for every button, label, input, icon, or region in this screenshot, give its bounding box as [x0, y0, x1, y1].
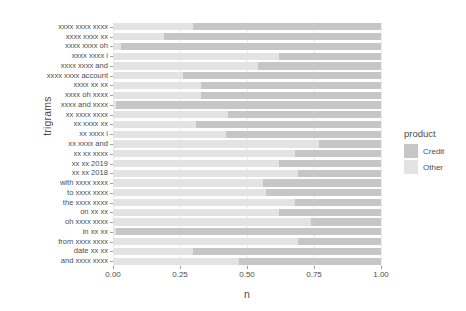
x-axis-tick-label: 0.00 [105, 270, 121, 279]
bar-segment-credit [193, 248, 381, 255]
legend-title: product [404, 128, 464, 139]
x-axis-tick-label: 0.50 [239, 270, 255, 279]
y-axis-tick-label: xx xx 2018 [20, 169, 108, 177]
bar-row [113, 238, 381, 245]
x-axis-tick [314, 266, 315, 269]
bar-row [113, 23, 381, 30]
y-axis-tick-label: to xxxx xxxx [20, 189, 108, 197]
x-axis-tick-labels: 0.000.250.500.751.00 [113, 270, 381, 282]
bar-row [113, 72, 381, 79]
legend-items: CreditOther [404, 144, 464, 174]
bar-row [113, 170, 381, 177]
bar-segment-other [113, 62, 258, 69]
bar-segment-credit [319, 140, 381, 147]
bar-row [113, 140, 381, 147]
y-axis-tick-label: on xx xx [20, 208, 108, 216]
bar-row [113, 160, 381, 167]
bar-segment-credit [193, 23, 381, 30]
bar-segment-other [113, 209, 279, 216]
y-axis-tick-labels: xxxx xxxx xxxxxxxx xxxx xxxxxx xxxx ohxx… [20, 22, 108, 266]
legend: product CreditOther [404, 128, 464, 176]
bar-segment-credit [295, 150, 381, 157]
bar-segment-credit [121, 43, 381, 50]
bar-segment-other [113, 199, 295, 206]
y-axis-tick-label: xx xx 2019 [20, 160, 108, 168]
x-axis-tick [247, 266, 248, 269]
y-axis-tick-label: xx xxxx xxxx [20, 111, 108, 119]
bar-segment-other [113, 140, 319, 147]
legend-label: Credit [423, 147, 444, 156]
legend-swatch-other [404, 160, 418, 174]
x-axis-tick [381, 266, 382, 269]
bar-segment-credit [266, 189, 381, 196]
y-axis-tick-label: xxxx xxxx and [20, 62, 108, 70]
bar-segment-other [113, 23, 193, 30]
bar-row [113, 150, 381, 157]
bar-segment-credit [311, 218, 381, 225]
bar-segment-other [113, 82, 201, 89]
legend-item[interactable]: Other [404, 160, 464, 174]
y-axis-tick-label: oh xxxx xxxx [20, 218, 108, 226]
bar-segment-credit [116, 228, 381, 235]
bar-segment-credit [239, 258, 381, 265]
y-axis-tick-label: xxxx xx xx [20, 81, 108, 89]
bar-row [113, 189, 381, 196]
bar-row [113, 218, 381, 225]
bar-row [113, 228, 381, 235]
bar-segment-other [113, 170, 298, 177]
bar-segment-credit [226, 131, 381, 138]
y-axis-tick-label: xxxx xxxx i [20, 52, 108, 60]
bar-row [113, 101, 381, 108]
y-axis-tick-label: xxxx oh xxxx [20, 91, 108, 99]
bar-row [113, 131, 381, 138]
legend-item[interactable]: Credit [404, 144, 464, 158]
bar-segment-other [113, 160, 279, 167]
bar-row [113, 62, 381, 69]
bar-segment-credit [298, 170, 381, 177]
bar-segment-other [113, 150, 295, 157]
bar-segment-other [113, 33, 164, 40]
bar-row [113, 33, 381, 40]
bar-segment-credit [196, 121, 381, 128]
plot-panel [113, 22, 381, 266]
legend-key [404, 144, 418, 158]
y-axis-tick-label: xxxx xxxx account [20, 72, 108, 80]
y-axis-tick-label: xx xxxx i [20, 130, 108, 138]
x-axis-tick [113, 266, 114, 269]
x-axis-tick-label: 1.00 [373, 270, 389, 279]
bar-segment-other [113, 111, 228, 118]
bar-row [113, 92, 381, 99]
y-axis-tick-label: the xxxx xxxx [20, 199, 108, 207]
bar-segment-other [113, 189, 266, 196]
x-axis-tick-label: 0.25 [172, 270, 188, 279]
legend-label: Other [423, 163, 443, 172]
y-axis-tick-label: xxxx xxxx xx [20, 33, 108, 41]
chart-figure: trigrams xxxx xxxx xxxxxxxx xxxx xxxxxx … [0, 0, 466, 311]
legend-key [404, 160, 418, 174]
bar-segment-credit [258, 62, 381, 69]
bar-row [113, 82, 381, 89]
bar-segment-other [113, 53, 279, 60]
y-axis-tick-label: xxxx and xxxx [20, 101, 108, 109]
bar-segment-credit [279, 53, 381, 60]
bar-segment-credit [295, 199, 381, 206]
y-axis-tick-label: with xxxx xxxx [20, 179, 108, 187]
y-axis-tick-label: and xxxx xxxx [20, 257, 108, 265]
bar-row [113, 111, 381, 118]
bar-segment-other [113, 258, 239, 265]
bar-row [113, 199, 381, 206]
bar-segment-other [113, 238, 298, 245]
bar-segment-credit [183, 72, 381, 79]
y-axis-tick-label: xx xxxx xx [20, 120, 108, 128]
bar-segment-other [113, 131, 226, 138]
bar-segment-other [113, 121, 196, 128]
bar-segment-credit [201, 82, 381, 89]
bar-segment-other [113, 72, 183, 79]
x-axis-tick-label: 0.75 [306, 270, 322, 279]
bar-segment-credit [279, 160, 381, 167]
x-axis-tick [180, 266, 181, 269]
bar-segment-credit [164, 33, 381, 40]
bar-segment-other [113, 179, 263, 186]
y-axis-tick-label: xxxx xxxx xxxx [20, 23, 108, 31]
bar-segment-other [113, 92, 201, 99]
